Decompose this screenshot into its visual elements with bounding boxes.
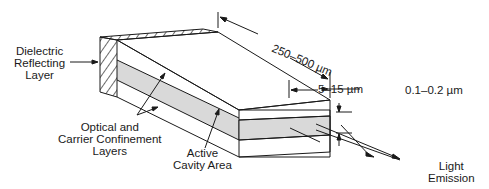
thickness-dimension: 0.1–0.2 µm	[405, 84, 463, 96]
label-line: Light	[428, 160, 475, 172]
label-line: Dielectric	[14, 45, 65, 57]
label-line: Emission	[428, 172, 475, 184]
label-line: Carrier Confinement	[58, 133, 162, 145]
dielectric-layer	[100, 37, 117, 97]
label-line: Cavity Area	[173, 159, 232, 171]
emission-label: Light Emission	[428, 160, 475, 184]
label-line: Optical and	[58, 121, 162, 133]
top-face	[117, 32, 330, 110]
label-line: Active	[173, 147, 232, 159]
width-dimension: 5–15 µm	[318, 83, 363, 95]
dielectric-label: Dielectric Reflecting Layer	[14, 45, 65, 81]
label-line: Layer	[14, 69, 65, 81]
label-line: Reflecting	[14, 57, 65, 69]
label-line: Layers	[58, 145, 162, 157]
active-label: Active Cavity Area	[173, 147, 232, 171]
confinement-label: Optical and Carrier Confinement Layers	[58, 121, 162, 157]
